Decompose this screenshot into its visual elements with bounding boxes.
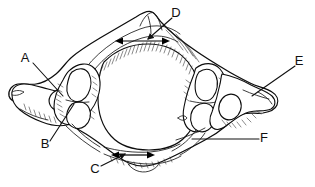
- left-superior-facet-lower: [67, 102, 91, 129]
- label-f: F: [260, 130, 268, 145]
- label-b: B: [41, 136, 50, 151]
- label-a: A: [21, 50, 30, 65]
- vertebra-diagram: A B C D E F: [0, 0, 315, 187]
- right-superior-facet-upper: [195, 69, 217, 101]
- label-d: D: [171, 5, 180, 20]
- figure-container: A B C D E F: [0, 0, 315, 187]
- label-e: E: [295, 53, 304, 68]
- leader-line-e: [252, 66, 295, 96]
- label-c: C: [90, 161, 99, 176]
